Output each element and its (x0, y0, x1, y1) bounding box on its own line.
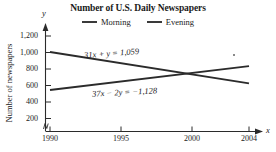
print-speck-artifact (233, 54, 235, 56)
x-tick-marks (50, 127, 249, 132)
y-axis-title: Number of newspapers (4, 33, 14, 133)
x-tick-label-1990: 1990 (30, 134, 70, 143)
x-tick-label-2000: 2000 (172, 134, 212, 143)
plot-area (0, 0, 276, 152)
newspapers-line-chart: Number of U.S. Daily Newspapers Morning … (0, 0, 276, 152)
y-axis-variable-letter: y (42, 8, 46, 18)
x-axis-variable-letter: x (266, 125, 270, 135)
y-tick-marks (46, 36, 52, 119)
y-axis-arrowhead (43, 23, 49, 31)
x-tick-label-2004: 2004 (229, 134, 269, 143)
x-tick-label-1995: 1995 (101, 134, 141, 143)
